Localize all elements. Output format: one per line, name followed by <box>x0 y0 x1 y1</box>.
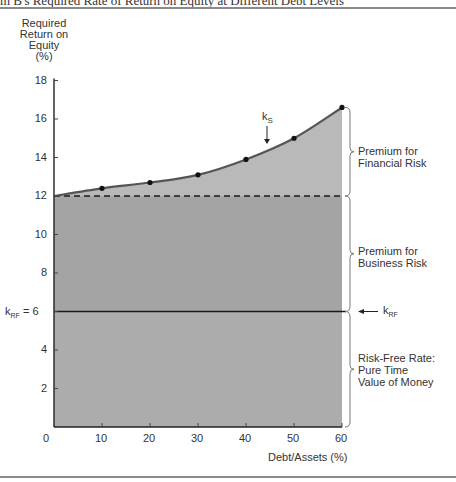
business-risk-region <box>54 196 342 312</box>
chart-plot <box>0 0 456 482</box>
label-line: Pure Time <box>358 364 435 376</box>
y-tick-label: 18 <box>35 74 47 86</box>
krf-sub: RF <box>11 312 20 319</box>
y-tick-label: 16 <box>35 112 47 124</box>
data-point <box>291 136 296 141</box>
label-line: Premium for <box>358 145 426 157</box>
y-tick-label: 10 <box>35 228 47 240</box>
ks-label: kS <box>262 110 273 127</box>
x-tick-label: 0 <box>43 432 49 444</box>
y-tick-label: 14 <box>35 151 47 163</box>
label-line: Risk-Free Rate: <box>358 352 435 364</box>
data-point <box>99 186 104 191</box>
label-line: Premium for <box>358 245 427 257</box>
financial-risk-region <box>54 107 342 196</box>
x-tick-label: 30 <box>191 432 203 444</box>
data-point <box>243 157 248 162</box>
y-tick-label: 2 <box>41 382 47 394</box>
data-point <box>147 180 152 185</box>
krf-right-label: kRF <box>383 304 398 321</box>
y-tick-label: 4 <box>41 343 47 355</box>
krf-arrow-head <box>358 309 364 314</box>
ks-arrow-head <box>264 139 270 144</box>
label-line: Financial Risk <box>358 157 426 169</box>
data-point <box>195 172 200 177</box>
label-financial-risk: Premium for Financial Risk <box>358 145 426 169</box>
label-line: Value of Money <box>358 376 435 388</box>
label-risk-free: Risk-Free Rate: Pure Time Value of Money <box>358 352 435 388</box>
krf-value: = 6 <box>20 305 39 317</box>
bottom-rule <box>0 476 456 478</box>
x-tick-label: 20 <box>143 432 155 444</box>
x-axis-label: Debt/Assets (%) <box>268 451 347 463</box>
label-line: Business Risk <box>358 257 427 269</box>
krf-left-label: kRF = 6 <box>5 305 39 322</box>
risk-free-region <box>54 312 342 428</box>
brace-financial-risk <box>345 107 354 196</box>
x-tick-label: 10 <box>95 432 107 444</box>
x-tick-label: 60 <box>335 432 347 444</box>
ks-sub: S <box>268 116 273 125</box>
x-tick-label: 40 <box>239 432 251 444</box>
x-tick-label: 50 <box>287 432 299 444</box>
data-point <box>339 105 344 110</box>
y-tick-label: 12 <box>35 189 47 201</box>
krf-right-sub: RF <box>389 311 398 318</box>
brace-business-risk <box>345 196 354 312</box>
brace-risk-free <box>345 312 354 428</box>
y-tick-label: 8 <box>41 266 47 278</box>
label-business-risk: Premium for Business Risk <box>358 245 427 269</box>
